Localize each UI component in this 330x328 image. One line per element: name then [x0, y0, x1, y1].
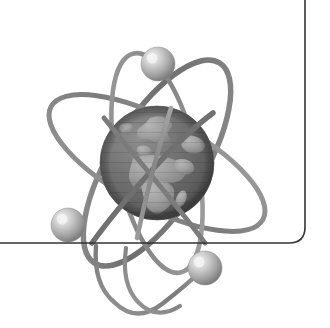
- electron-lower-left: [51, 208, 85, 242]
- electron-lower-right: [188, 251, 222, 285]
- atom-globe-illustration: [0, 0, 330, 328]
- electron-top: [141, 47, 175, 81]
- image-canvas: Grayscale illustration of an atom whose …: [0, 0, 330, 328]
